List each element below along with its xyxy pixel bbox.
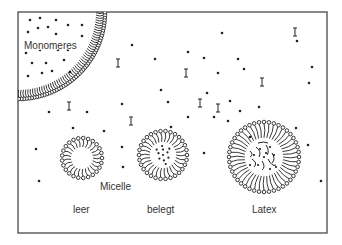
- monomer-dot: [55, 19, 58, 22]
- label-micelle: Micelle: [100, 181, 132, 192]
- monomer-dot: [25, 52, 28, 55]
- monomer-dot: [121, 103, 124, 106]
- monomer-dot: [47, 26, 50, 29]
- monomer-dot: [170, 126, 173, 129]
- monomer-dot: [187, 51, 190, 54]
- monomer-dot: [206, 92, 209, 95]
- label-monomeres: Monomeres: [24, 40, 77, 51]
- monomer-dot: [37, 27, 40, 30]
- label-latex: Latex: [252, 204, 276, 215]
- monomer-dot: [55, 33, 58, 36]
- monomer-dot: [29, 19, 32, 22]
- monomer-dot: [237, 58, 240, 61]
- monomer-dot: [203, 57, 206, 60]
- monomer-dot: [27, 75, 30, 78]
- monomer-dot: [320, 180, 323, 183]
- monomer-dot: [308, 82, 311, 85]
- monomer-dot: [239, 110, 242, 113]
- monomer-dot: [69, 71, 72, 74]
- monomer-dot: [311, 66, 314, 69]
- monomer-dot: [63, 59, 66, 62]
- monomer-dot: [41, 72, 44, 75]
- monomer-dot: [81, 24, 84, 27]
- emulsion-polymerization-diagram: Monomeres Micelle leer belegt Latex: [0, 0, 342, 245]
- monomer-dot: [307, 144, 310, 147]
- monomer-dot: [39, 17, 42, 20]
- monomer-dot: [160, 89, 163, 92]
- monomer-dot: [48, 111, 51, 114]
- monomer-dot: [27, 31, 30, 34]
- monomer-dot: [154, 58, 157, 61]
- monomer-dot: [122, 166, 125, 169]
- label-leer: leer: [73, 204, 90, 215]
- monomer-dot: [35, 148, 38, 151]
- monomer-dot: [103, 130, 106, 133]
- monomer-dot: [131, 44, 134, 47]
- monomer-dot: [203, 152, 206, 155]
- monomer-dot: [217, 72, 220, 75]
- monomer-dot: [86, 111, 89, 114]
- monomer-dot: [167, 101, 170, 104]
- monomer-dot: [45, 62, 48, 65]
- monomer-dot: [81, 35, 84, 38]
- monomer-dot: [187, 116, 190, 119]
- monomer-dot: [243, 68, 246, 71]
- monomer-dot: [296, 40, 299, 43]
- label-belegt: belegt: [147, 204, 174, 215]
- monomer-dot: [221, 32, 224, 35]
- monomer-dot: [229, 100, 232, 103]
- monomer-dot: [121, 146, 124, 149]
- monomer-dot: [227, 120, 230, 123]
- monomer-dot: [72, 127, 75, 130]
- monomer-dot: [31, 62, 34, 65]
- monomer-dot: [67, 24, 70, 27]
- monomer-dot: [51, 70, 54, 73]
- monomer-dot: [38, 180, 41, 183]
- monomer-dot: [213, 116, 216, 119]
- monomer-dot: [258, 106, 261, 109]
- monomer-dot: [295, 127, 298, 130]
